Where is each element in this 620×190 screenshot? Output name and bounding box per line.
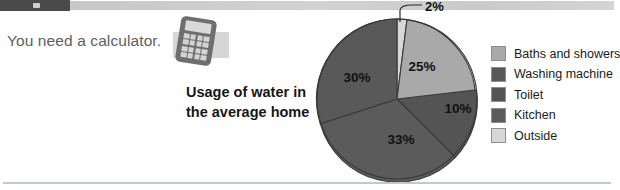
calculator-icon (175, 15, 218, 66)
chart-legend: Baths and showers Washing machine Toilet… (491, 44, 620, 147)
pie-chart-svg: 25% 10% 33% 30% 2% (300, 0, 500, 190)
legend-item-washing-machine: Washing machine (491, 65, 620, 84)
pie-label-25: 25% (408, 59, 435, 74)
topbar-dark-block (0, 0, 70, 11)
legend-label: Baths and showers (514, 47, 620, 61)
legend-label: Washing machine (514, 67, 613, 81)
chart-title-line1: Usage of water in (186, 83, 316, 103)
calculator-keys (180, 33, 209, 61)
legend-item-outside: Outside (491, 126, 620, 145)
legend-item-toilet: Toilet (491, 85, 620, 104)
legend-swatch-icon (491, 46, 506, 61)
legend-label: Outside (514, 129, 557, 143)
pie-chart: 25% 10% 33% 30% 2% (300, 0, 500, 190)
legend-swatch-icon (491, 128, 506, 143)
legend-swatch-icon (491, 108, 506, 123)
legend-item-baths-and-showers: Baths and showers (491, 44, 620, 63)
legend-swatch-icon (491, 87, 506, 102)
legend-swatch-icon (491, 67, 506, 82)
chart-title-line2: the average home (186, 103, 316, 123)
legend-label: Toilet (514, 88, 543, 102)
pie-label-30: 30% (343, 70, 370, 85)
pie-label-2-callout: 2% (425, 0, 444, 14)
chart-title: Usage of water in the average home (186, 83, 316, 122)
legend-label: Kitchen (514, 108, 556, 122)
legend-item-kitchen: Kitchen (491, 106, 620, 125)
pie-label-33: 33% (387, 132, 414, 147)
caption-text: You need a calculator. (7, 32, 161, 50)
bottom-divider (3, 182, 611, 184)
pie-label-10: 10% (444, 101, 471, 116)
